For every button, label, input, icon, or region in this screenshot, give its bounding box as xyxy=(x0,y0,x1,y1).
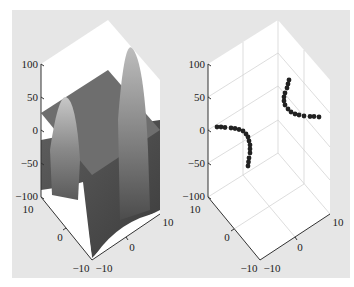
z-tick-0: 0 xyxy=(33,124,39,136)
z-tick-neg50: −50 xyxy=(21,157,39,169)
z-tick-50: 50 xyxy=(194,91,206,103)
z-tick-50: 50 xyxy=(27,91,39,103)
x-tick-neg10: −10 xyxy=(263,262,281,274)
z-tick-0: 0 xyxy=(200,124,206,136)
z-tick-neg100: −100 xyxy=(182,190,205,202)
y-tick-neg10: −10 xyxy=(72,262,90,274)
surface-plot: 100 50 0 −50 −100 10 0 −10 −10 0 10 xyxy=(15,20,174,274)
x-tick-10: 10 xyxy=(333,216,345,228)
scatter-plot: 100 50 0 −50 −100 10 0 −10 −10 0 10 xyxy=(182,20,344,274)
y-tick-0: 0 xyxy=(224,231,230,243)
axes-box-right xyxy=(208,20,330,260)
x-tick-0: 0 xyxy=(297,241,303,253)
z-tick-neg50: −50 xyxy=(188,157,206,169)
y-tick-10: 10 xyxy=(23,203,35,215)
x-tick-neg10: −10 xyxy=(95,262,113,274)
x-tick-0: 0 xyxy=(129,241,135,253)
y-tick-0: 0 xyxy=(57,231,63,243)
x-tick-10: 10 xyxy=(163,216,175,228)
z-tick-100: 100 xyxy=(22,58,39,70)
figure-canvas: 100 50 0 −50 −100 10 0 −10 −10 0 10 xyxy=(0,0,354,287)
z-tick-neg100: −100 xyxy=(15,190,38,202)
y-tick-10: 10 xyxy=(190,203,202,215)
z-tick-100: 100 xyxy=(189,58,206,70)
y-tick-neg10: −10 xyxy=(240,262,258,274)
